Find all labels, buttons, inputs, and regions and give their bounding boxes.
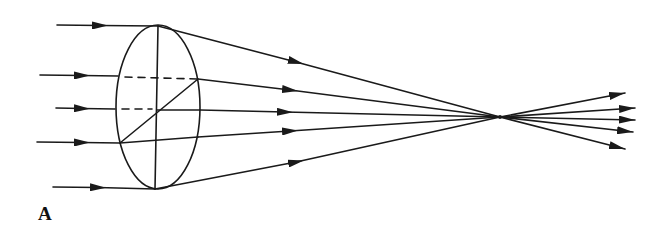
converging-ray-1 <box>158 26 500 117</box>
converging-rays <box>155 26 500 189</box>
lens-vertical-axis <box>155 26 158 189</box>
ray-4-inside-lens <box>120 137 198 143</box>
panel-label: A <box>38 203 52 225</box>
dashed-ray-2-inside-lens <box>125 77 197 79</box>
focal-point <box>498 115 502 119</box>
incoming-ray-5 <box>53 187 155 189</box>
incoming-ray-4 <box>37 142 120 143</box>
diverging-rays <box>500 93 635 149</box>
incoming-rays <box>37 25 158 189</box>
incoming-ray-1 <box>57 25 158 26</box>
lens-ray-diagram <box>0 0 655 235</box>
incoming-ray-3 <box>56 108 115 109</box>
diverging-ray-5 <box>500 117 625 149</box>
incoming-ray-2 <box>40 75 118 76</box>
lens-slant-chord <box>120 79 198 143</box>
